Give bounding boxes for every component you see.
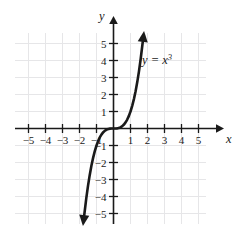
y-axis-label: y: [97, 9, 105, 23]
x-axis-label: x: [225, 132, 232, 146]
y-tick-label: 2: [101, 89, 107, 101]
curve-equation-base: y = x: [140, 53, 168, 67]
curve-arrowhead-top: [138, 31, 148, 43]
curve-arrowhead-bottom: [79, 214, 89, 226]
y-tick-label: −2: [95, 157, 107, 169]
y-tick-label: 5: [101, 38, 107, 50]
graph-canvas: −5−4−3−2−112345 54321−1−2−3−4−5 x y y = …: [0, 0, 239, 237]
x-tick-label: 5: [196, 134, 202, 146]
x-tick-label: −3: [57, 134, 69, 146]
y-tick-label: −5: [95, 208, 107, 220]
x-tick-label: −2: [74, 134, 86, 146]
x-tick-label: −5: [23, 134, 35, 146]
curve-equation-exponent: 3: [167, 52, 172, 62]
x-tick-label: 2: [145, 134, 151, 146]
y-axis-arrowhead: [109, 16, 118, 24]
x-tick-label: 1: [128, 134, 134, 146]
x-tick-label: 3: [162, 134, 168, 146]
axes: [15, 16, 224, 224]
x-tick-label: 4: [179, 134, 185, 146]
cubic-function-graph-figure: −5−4−3−2−112345 54321−1−2−3−4−5 x y y = …: [0, 0, 239, 237]
curve-equation-label: y = x3: [140, 52, 172, 68]
x-axis-tick-labels: −5−4−3−2−112345: [23, 134, 202, 146]
y-tick-label: 4: [101, 55, 107, 67]
y-tick-label: −3: [95, 174, 107, 186]
y-tick-label: −4: [95, 191, 107, 203]
x-tick-label: −4: [40, 134, 52, 146]
y-tick-label: 3: [101, 72, 107, 84]
y-tick-label: 1: [101, 106, 107, 118]
x-axis-arrowhead: [216, 124, 224, 133]
